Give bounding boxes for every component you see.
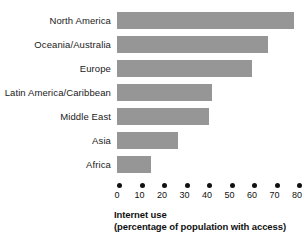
bar: [117, 60, 252, 77]
x-axis-tick-label: 30: [173, 191, 197, 200]
tick-marker-dot-icon: [117, 183, 122, 188]
x-axis-tick-label: 60: [240, 191, 264, 200]
x-axis-tick-label: 40: [195, 191, 219, 200]
bar: [117, 108, 209, 125]
category-label: Europe: [0, 60, 111, 77]
category-label: Africa: [0, 156, 111, 173]
category-label: Latin America/Caribbean: [0, 84, 111, 101]
bar-chart: North AmericaOceania/AustraliaEuropeLati…: [0, 0, 304, 240]
bar-row: [117, 60, 297, 77]
tick-marker-dot-icon: [297, 183, 302, 188]
category-label: North America: [0, 12, 111, 29]
category-label: Middle East: [0, 108, 111, 125]
bar: [117, 132, 178, 149]
x-axis-tick-label: 50: [218, 191, 242, 200]
tick-marker-dot-icon: [275, 183, 280, 188]
x-axis-tick-label: 80: [285, 191, 304, 200]
bar-row: [117, 84, 297, 101]
category-label: Asia: [0, 132, 111, 149]
tick-marker-dot-icon: [207, 183, 212, 188]
plot-area: [117, 12, 297, 180]
x-axis-tick-label: 10: [128, 191, 152, 200]
tick-marker-dot-icon: [140, 183, 145, 188]
bar-row: [117, 132, 297, 149]
bar-row: [117, 156, 297, 173]
tick-marker-dot-icon: [230, 183, 235, 188]
bar: [117, 156, 151, 173]
bar-row: [117, 12, 297, 29]
category-label: Oceania/Australia: [0, 36, 111, 53]
category-axis-labels: North AmericaOceania/AustraliaEuropeLati…: [0, 12, 111, 180]
bar: [117, 12, 294, 29]
tick-marker-dot-icon: [252, 183, 257, 188]
bar-row: [117, 36, 297, 53]
x-axis-title: Internet use(percentage of population wi…: [114, 209, 304, 233]
tick-marker-dot-icon: [185, 183, 190, 188]
x-axis-tick-label: 0: [105, 191, 129, 200]
x-axis-tick-label: 70: [263, 191, 287, 200]
bar: [117, 36, 268, 53]
x-axis-tick-label: 20: [150, 191, 174, 200]
tick-marker-dot-icon: [162, 183, 167, 188]
x-axis-title-line: Internet use: [114, 209, 304, 221]
bar-row: [117, 108, 297, 125]
bar: [117, 84, 212, 101]
x-axis: 01020304050607080: [0, 183, 304, 209]
x-axis-title-line: (percentage of population with access): [114, 221, 304, 233]
